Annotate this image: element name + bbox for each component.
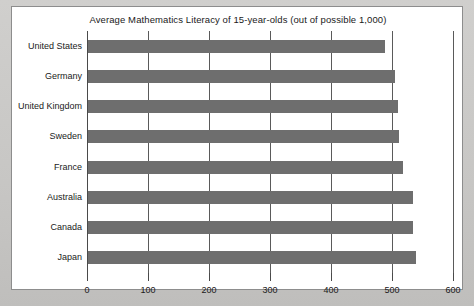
category-label: Germany	[45, 70, 82, 83]
gridline	[331, 31, 332, 273]
x-axis-tick	[270, 273, 271, 281]
category-label: United States	[28, 40, 82, 53]
bar	[88, 251, 416, 264]
x-axis-tick	[453, 273, 454, 281]
x-axis-tick-label: 300	[262, 285, 277, 295]
gridline	[453, 31, 454, 273]
category-label: France	[54, 161, 82, 174]
chart-title: Average Mathematics Literacy of 15-year-…	[12, 14, 464, 25]
x-axis-tick	[209, 273, 210, 281]
category-label: Japan	[57, 251, 82, 264]
x-axis-tick	[148, 273, 149, 281]
bar	[88, 130, 399, 143]
category-label: Sweden	[49, 130, 82, 143]
x-axis-tick-label: 100	[140, 285, 155, 295]
y-axis-line	[87, 31, 88, 273]
gridline	[148, 31, 149, 273]
x-axis-tick-label: 600	[445, 285, 460, 295]
gridline	[392, 31, 393, 273]
plot-area: 0100200300400500600	[87, 31, 453, 273]
x-axis-tick-label: 500	[384, 285, 399, 295]
category-label: United Kingdom	[18, 100, 82, 113]
x-axis-tick-label: 400	[323, 285, 338, 295]
x-axis-tick-label: 200	[201, 285, 216, 295]
bar	[88, 161, 403, 174]
bar	[88, 221, 413, 234]
category-labels: United StatesGermanyUnited KingdomSweden…	[12, 31, 87, 273]
x-axis-tick	[331, 273, 332, 281]
x-axis-tick	[392, 273, 393, 281]
x-axis-tick-label: 0	[84, 285, 89, 295]
gridline	[270, 31, 271, 273]
bar	[88, 70, 395, 83]
bar	[88, 191, 413, 204]
category-label: Canada	[50, 221, 82, 234]
chart-panel: Average Mathematics Literacy of 15-year-…	[11, 6, 463, 290]
bar	[88, 100, 398, 113]
bar	[88, 40, 385, 53]
gridline	[209, 31, 210, 273]
x-axis-tick	[87, 273, 88, 281]
category-label: Australia	[47, 191, 82, 204]
